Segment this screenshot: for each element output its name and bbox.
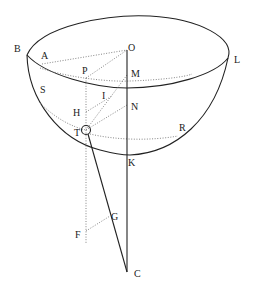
label-C: C xyxy=(134,268,141,279)
label-T: T xyxy=(74,127,80,138)
label-G: G xyxy=(111,211,118,222)
label-M: M xyxy=(131,68,140,79)
label-A: A xyxy=(41,50,49,61)
line-H-I xyxy=(86,96,112,112)
dotted-arc-R xyxy=(90,134,178,139)
label-F: F xyxy=(75,229,81,240)
line-T-N xyxy=(86,105,127,130)
label-I: I xyxy=(102,90,105,101)
dotted-parallel-upper xyxy=(40,68,192,81)
line-T-M xyxy=(86,75,127,130)
label-H: H xyxy=(73,107,80,118)
label-P: P xyxy=(82,65,88,76)
line-P-O xyxy=(86,50,127,78)
label-S: S xyxy=(40,84,46,95)
line-A-O xyxy=(42,50,127,64)
label-N: N xyxy=(131,101,138,112)
label-R: R xyxy=(179,122,186,133)
label-K: K xyxy=(128,157,136,168)
hemisphere-diagram: B A O L P M S I H N T R K G F C xyxy=(0,0,254,294)
label-B: B xyxy=(14,43,21,54)
label-O: O xyxy=(128,42,135,53)
label-L: L xyxy=(234,54,240,65)
line-F-G xyxy=(86,216,110,231)
